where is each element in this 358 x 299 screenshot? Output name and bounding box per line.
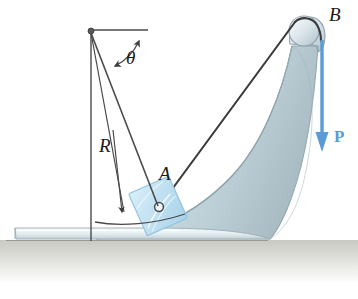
label-theta: θ (126, 48, 135, 67)
ground-surface (0, 240, 358, 284)
figure-canvas: θ R A B P (0, 0, 358, 299)
label-force-p: P (334, 128, 344, 145)
pin-joint-a (155, 203, 164, 212)
label-radius-r: R (99, 136, 111, 155)
mechanics-diagram-svg (0, 0, 358, 299)
label-point-a: A (159, 164, 171, 183)
label-point-b: B (329, 5, 341, 24)
